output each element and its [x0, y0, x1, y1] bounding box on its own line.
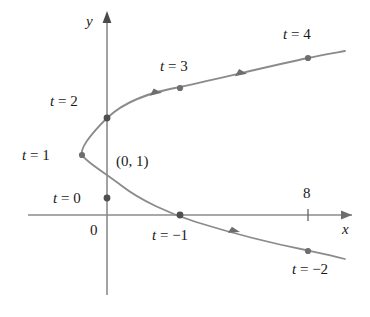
- label-t-4: t = 4: [283, 27, 311, 42]
- label-t-1-val: 1: [42, 147, 50, 163]
- label-t-minus-2-var: t: [292, 261, 296, 277]
- label-t-1: t = 1: [22, 148, 50, 163]
- label-t-2: t = 2: [50, 94, 78, 109]
- label-t-2-eq: =: [58, 93, 66, 109]
- label-t-minus-2-val: −2: [312, 261, 328, 277]
- curve-points: [79, 55, 311, 254]
- annotation-point-label: (0, 1): [116, 154, 149, 169]
- direction-arrow-upper-2: [235, 69, 247, 77]
- label-t-0-var: t: [53, 190, 57, 206]
- x-axis-label: x: [342, 222, 349, 237]
- label-t-3-var: t: [160, 58, 164, 74]
- label-t-0-val: 0: [73, 190, 81, 206]
- label-t-minus-1-val: −1: [172, 227, 188, 243]
- point-t-minus-2: [305, 248, 311, 254]
- label-t-4-val: 4: [303, 26, 311, 42]
- label-t-4-var: t: [283, 26, 287, 42]
- label-t-1-var: t: [22, 147, 26, 163]
- x-axis-arrowhead: [341, 211, 352, 220]
- label-t-minus-1: t = −1: [152, 228, 188, 243]
- y-axis: [103, 11, 112, 295]
- origin-label: 0: [90, 223, 98, 238]
- label-t-minus-1-eq: =: [160, 227, 168, 243]
- point-t-1: [79, 152, 85, 158]
- direction-arrow-upper: [150, 88, 162, 96]
- point-t-2: [104, 115, 111, 122]
- point-t-4: [305, 55, 311, 61]
- label-t-minus-1-var: t: [152, 227, 156, 243]
- label-t-3-eq: =: [168, 58, 176, 74]
- label-t-4-eq: =: [291, 26, 299, 42]
- y-axis-label: y: [86, 14, 93, 29]
- label-t-minus-2: t = −2: [292, 262, 328, 277]
- label-t-3-val: 3: [180, 58, 188, 74]
- label-t-3: t = 3: [160, 59, 188, 74]
- x-tick-label-8: 8: [303, 186, 311, 201]
- label-t-0: t = 0: [53, 191, 81, 206]
- y-axis-arrowhead: [103, 11, 112, 23]
- label-t-minus-2-eq: =: [300, 261, 308, 277]
- label-t-2-var: t: [50, 93, 54, 109]
- label-t-1-eq: =: [30, 147, 38, 163]
- label-t-2-val: 2: [70, 93, 78, 109]
- point-t-3: [177, 85, 183, 91]
- point-t-minus-1: [177, 212, 184, 219]
- point-t-0: [104, 195, 111, 202]
- label-t-0-eq: =: [61, 190, 69, 206]
